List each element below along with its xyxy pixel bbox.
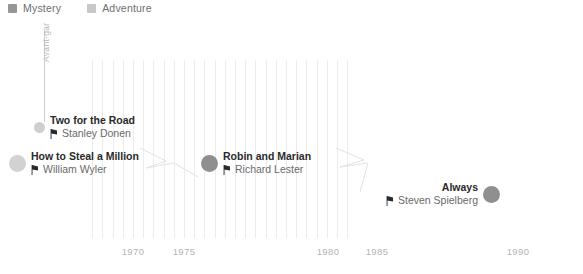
director-row: Richard Lester xyxy=(223,163,311,176)
gridline xyxy=(225,60,226,238)
square-swatch-icon xyxy=(87,4,96,13)
director-name: Steven Spielberg xyxy=(398,194,478,207)
timeline-chart: MysteryAdventure Avant-gar Two for the R… xyxy=(0,0,583,274)
gridline xyxy=(286,60,287,238)
gridline xyxy=(296,60,297,238)
axis-tick-label: 1985 xyxy=(366,246,389,257)
gridline xyxy=(204,60,205,238)
gridline xyxy=(245,60,246,238)
gridline xyxy=(123,60,124,238)
entry-text: AlwaysSteven Spielberg xyxy=(386,181,478,207)
film-dot[interactable] xyxy=(483,186,500,203)
gridline xyxy=(235,60,236,238)
gridline xyxy=(113,60,114,238)
director-row: Steven Spielberg xyxy=(386,194,478,207)
connector-two xyxy=(330,146,390,196)
gridline xyxy=(133,60,134,238)
film-dot[interactable] xyxy=(9,155,26,172)
square-swatch-icon xyxy=(8,4,17,13)
film-title: How to Steal a Million xyxy=(31,150,139,163)
gridline xyxy=(306,60,307,238)
film-dot[interactable] xyxy=(201,155,218,172)
film-clapper-icon xyxy=(386,196,394,206)
entry-text: Two for the RoadStanley Donen xyxy=(50,114,135,140)
film-title: Two for the Road xyxy=(50,114,135,127)
film-clapper-icon xyxy=(50,129,58,139)
gridline xyxy=(102,60,103,238)
film-dot[interactable] xyxy=(34,122,45,133)
gridline xyxy=(92,60,93,238)
axis-tick-label: 1975 xyxy=(173,246,196,257)
entry-text: Robin and MarianRichard Lester xyxy=(223,150,311,176)
connector-one xyxy=(140,146,200,180)
legend-item-mystery[interactable]: Mystery xyxy=(8,2,61,14)
gridline xyxy=(276,60,277,238)
stem-label: Avant-gar xyxy=(41,23,51,62)
gridline xyxy=(215,60,216,238)
timeline-entry[interactable]: How to Steal a MillionWilliam Wyler xyxy=(9,150,139,176)
film-title: Always xyxy=(442,181,478,194)
director-name: Richard Lester xyxy=(235,163,303,176)
legend-item-adventure[interactable]: Adventure xyxy=(87,2,152,14)
chart-legend: MysteryAdventure xyxy=(8,2,152,14)
director-name: Stanley Donen xyxy=(62,127,131,140)
film-clapper-icon xyxy=(31,165,39,175)
entry-text: How to Steal a MillionWilliam Wyler xyxy=(31,150,139,176)
director-row: William Wyler xyxy=(31,163,139,176)
axis-tick-label: 1980 xyxy=(317,246,340,257)
gridline xyxy=(266,60,267,238)
legend-label: Mystery xyxy=(23,2,61,14)
film-title: Robin and Marian xyxy=(223,150,311,163)
legend-label: Adventure xyxy=(102,2,152,14)
timeline-entry[interactable]: Two for the RoadStanley Donen xyxy=(34,114,135,140)
timeline-entry[interactable]: AlwaysSteven Spielberg xyxy=(386,181,500,207)
gridline xyxy=(255,60,256,238)
director-row: Stanley Donen xyxy=(50,127,135,140)
axis-tick-label: 1990 xyxy=(507,246,530,257)
gridline xyxy=(317,60,318,238)
axis-tick-label: 1970 xyxy=(122,246,145,257)
director-name: William Wyler xyxy=(43,163,106,176)
timeline-entry[interactable]: Robin and MarianRichard Lester xyxy=(201,150,311,176)
gridline xyxy=(327,60,328,238)
film-clapper-icon xyxy=(223,165,231,175)
